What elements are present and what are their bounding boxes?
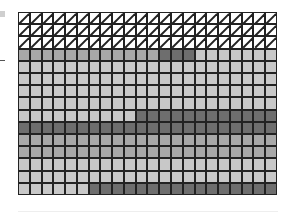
- grid-cell: [254, 86, 264, 96]
- grid-cell: [113, 98, 123, 108]
- grid-cell: [113, 159, 123, 169]
- grid-cell: [43, 86, 53, 96]
- grid-cell: [66, 86, 76, 96]
- grid-cell: [137, 86, 147, 96]
- grid-cell: [231, 86, 241, 96]
- grid-cell: [266, 123, 276, 133]
- grid-cell: [148, 50, 158, 60]
- grid-cell: [207, 111, 217, 121]
- grid-cell: [54, 86, 64, 96]
- grid-cell: [125, 147, 135, 157]
- grid-cell: [19, 123, 29, 133]
- grid-cell: [184, 123, 194, 133]
- grid-cell: [43, 111, 53, 121]
- grid-cell: [196, 98, 206, 108]
- grid-cell: [113, 25, 123, 35]
- grid-cell: [90, 159, 100, 169]
- grid-cell: [19, 13, 29, 23]
- grid-cell: [43, 184, 53, 194]
- grid-cell: [78, 50, 88, 60]
- grid-cell: [90, 98, 100, 108]
- grid-cell: [148, 172, 158, 182]
- grid-cell: [78, 74, 88, 84]
- grid-cell: [125, 50, 135, 60]
- grid-cell: [231, 62, 241, 72]
- grid-cell: [113, 172, 123, 182]
- grid-cell: [231, 13, 241, 23]
- grid-cell: [113, 86, 123, 96]
- grid-cell: [243, 172, 253, 182]
- grid-cell: [19, 159, 29, 169]
- grid-cell: [254, 159, 264, 169]
- grid-cell: [207, 37, 217, 47]
- grid-cell: [78, 86, 88, 96]
- grid-cell: [90, 184, 100, 194]
- left-margin-mark: [0, 11, 5, 17]
- grid-cell: [90, 74, 100, 84]
- grid-cell: [19, 111, 29, 121]
- grid-cell: [219, 50, 229, 60]
- grid-cell: [243, 50, 253, 60]
- grid-cell: [160, 111, 170, 121]
- grid-cell: [196, 62, 206, 72]
- grid-cell: [184, 135, 194, 145]
- grid-cell: [207, 135, 217, 145]
- grid-cell: [196, 184, 206, 194]
- grid-cell: [172, 74, 182, 84]
- grid-cell: [101, 50, 111, 60]
- grid-cell: [266, 86, 276, 96]
- grid-cell: [137, 25, 147, 35]
- grid-cell: [113, 184, 123, 194]
- grid-cell: [196, 13, 206, 23]
- grid-cell: [231, 135, 241, 145]
- grid-cell: [254, 74, 264, 84]
- grid-cell: [66, 98, 76, 108]
- grid-cell: [254, 147, 264, 157]
- grid-cell: [172, 86, 182, 96]
- grid-cell: [148, 184, 158, 194]
- grid-cell: [66, 13, 76, 23]
- grid-cell: [160, 159, 170, 169]
- grid-cell: [172, 37, 182, 47]
- grid-cell: [54, 62, 64, 72]
- grid-cell: [148, 62, 158, 72]
- grid-cell: [207, 123, 217, 133]
- grid-cell: [231, 98, 241, 108]
- grid-cell: [43, 159, 53, 169]
- grid-cell: [78, 62, 88, 72]
- grid-cell: [78, 37, 88, 47]
- grid-cell: [31, 13, 41, 23]
- grid-cell: [137, 62, 147, 72]
- grid-cell: [101, 123, 111, 133]
- grid-cell: [137, 147, 147, 157]
- grid-cell: [184, 13, 194, 23]
- grid-cell: [172, 123, 182, 133]
- grid-cell: [219, 184, 229, 194]
- grid-cell: [148, 111, 158, 121]
- grid-cell: [125, 172, 135, 182]
- grid-cell: [54, 172, 64, 182]
- grid-cell: [172, 13, 182, 23]
- grid-cell: [66, 172, 76, 182]
- grid-cell: [148, 123, 158, 133]
- grid-cell: [90, 37, 100, 47]
- grid-cell: [266, 172, 276, 182]
- grid-cell: [254, 13, 264, 23]
- grid-cell: [113, 135, 123, 145]
- grid-cell: [231, 50, 241, 60]
- grid-cell: [219, 135, 229, 145]
- grid-cell: [90, 25, 100, 35]
- grid-cell: [196, 37, 206, 47]
- grid-cell: [160, 184, 170, 194]
- grid-cell: [148, 25, 158, 35]
- grid-cell: [254, 184, 264, 194]
- grid-cell: [78, 135, 88, 145]
- grid-cell: [31, 37, 41, 47]
- grid-cell: [31, 74, 41, 84]
- grid-cell: [54, 74, 64, 84]
- grid-cell: [137, 159, 147, 169]
- grid-cell: [90, 86, 100, 96]
- grid-cell: [137, 135, 147, 145]
- grid-cell: [243, 98, 253, 108]
- grid-cell: [90, 62, 100, 72]
